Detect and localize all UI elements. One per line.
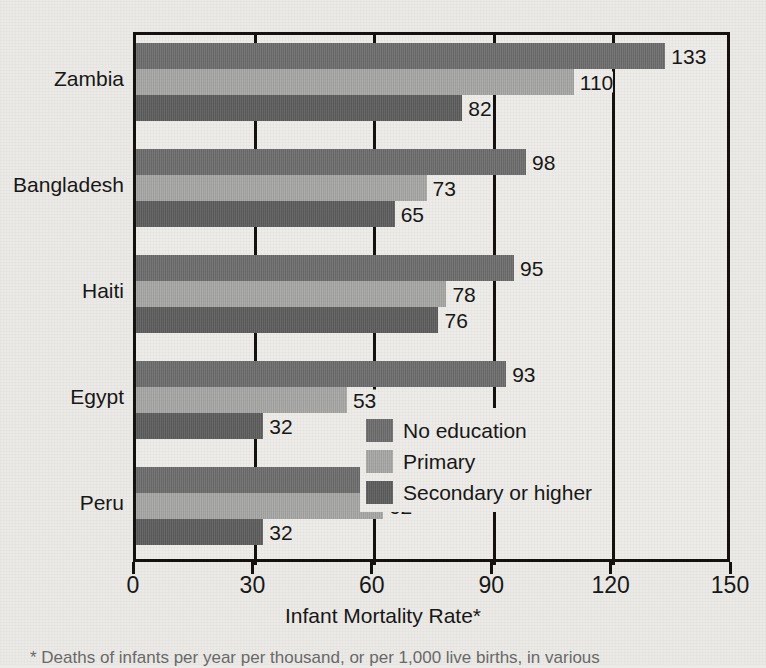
- bar-row: 73: [136, 175, 727, 201]
- legend-item-secondary-or-higher[interactable]: Secondary or higher: [366, 477, 588, 508]
- bar-value-label: 73: [427, 178, 456, 199]
- category-label-egypt: Egypt: [0, 385, 124, 409]
- bar-group-bangladesh: 987365: [136, 141, 727, 247]
- bar-value-label: 93: [506, 364, 535, 385]
- bar-bangladesh-primary: [136, 175, 427, 201]
- bar-egypt-secondary-or-higher: [136, 413, 263, 439]
- bar-peru-primary: [136, 493, 383, 519]
- x-tick-label-60: 60: [359, 572, 385, 599]
- category-label-peru: Peru: [0, 491, 124, 515]
- bar-row: 65: [136, 201, 727, 227]
- x-axis-title: Infant Mortality Rate*: [0, 604, 766, 628]
- bar-zambia-secondary-or-higher: [136, 95, 462, 121]
- bar-value-label: 98: [526, 152, 555, 173]
- legend-label: Primary: [403, 450, 475, 474]
- bar-value-label: 95: [514, 258, 543, 279]
- bar-value-label: 78: [446, 284, 475, 305]
- bar-row: 32: [136, 519, 727, 545]
- category-axis-labels: ZambiaBangladeshHaitiEgyptPeru: [0, 32, 124, 562]
- bar-haiti-primary: [136, 281, 446, 307]
- bar-row: 76: [136, 307, 727, 333]
- bar-value-label: 76: [438, 310, 467, 331]
- bar-group-haiti: 957876: [136, 247, 727, 353]
- chart-legend: No educationPrimarySecondary or higher: [366, 415, 588, 508]
- bar-haiti-no-education: [136, 255, 514, 281]
- bar-row: 82: [136, 95, 727, 121]
- bar-zambia-primary: [136, 69, 574, 95]
- x-tick-label-0: 0: [127, 572, 140, 599]
- chart-footnote: * Deaths of infants per year per thousan…: [30, 648, 760, 668]
- legend-item-no-education[interactable]: No education: [366, 415, 588, 446]
- bar-egypt-primary: [136, 387, 347, 413]
- bar-zambia-no-education: [136, 43, 665, 69]
- legend-swatch-icon: [366, 481, 393, 504]
- category-label-haiti: Haiti: [0, 279, 124, 303]
- bar-peru-secondary-or-higher: [136, 519, 263, 545]
- category-label-bangladesh: Bangladesh: [0, 173, 124, 197]
- bar-row: 93: [136, 361, 727, 387]
- bar-row: 78: [136, 281, 727, 307]
- bar-value-label: 133: [665, 46, 706, 67]
- bar-egypt-no-education: [136, 361, 506, 387]
- category-label-zambia: Zambia: [0, 67, 124, 91]
- legend-item-primary[interactable]: Primary: [366, 446, 588, 477]
- bar-row: 95: [136, 255, 727, 281]
- bar-value-label: 82: [462, 98, 491, 119]
- legend-swatch-icon: [366, 419, 393, 442]
- x-tick-label-120: 120: [591, 572, 629, 599]
- x-tick-label-30: 30: [240, 572, 266, 599]
- bar-value-label: 32: [263, 416, 292, 437]
- x-tick-label-90: 90: [478, 572, 504, 599]
- legend-swatch-icon: [366, 450, 393, 473]
- bar-bangladesh-no-education: [136, 149, 526, 175]
- legend-label: Secondary or higher: [403, 481, 592, 505]
- legend-label: No education: [403, 419, 527, 443]
- bar-value-label: 110: [574, 72, 613, 93]
- bar-group-zambia: 13311082: [136, 35, 727, 141]
- bar-haiti-secondary-or-higher: [136, 307, 438, 333]
- x-tick-label-150: 150: [711, 572, 749, 599]
- bar-row: 133: [136, 43, 727, 69]
- bar-row: 110: [136, 69, 727, 95]
- bar-value-label: 32: [263, 522, 292, 543]
- bar-row: 98: [136, 149, 727, 175]
- bar-bangladesh-secondary-or-higher: [136, 201, 395, 227]
- bar-value-label: 65: [395, 204, 424, 225]
